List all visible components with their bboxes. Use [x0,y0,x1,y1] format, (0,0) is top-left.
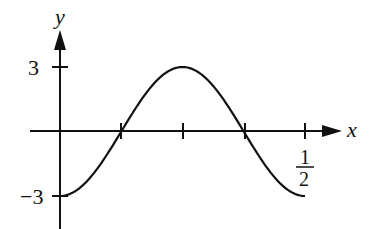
y-tick-label-3: 3 [28,55,39,80]
y-axis-arrow-icon [54,30,66,50]
x-tick-label-half-denominator: 2 [299,168,309,190]
x-tick-label-half-numerator: 1 [300,146,310,168]
x-axis-label: x [346,117,357,142]
x-axis-arrow-icon [322,125,342,137]
y-axis-label: y [53,4,65,29]
y-tick-label-neg3: −3 [20,184,43,209]
sinusoid-graph: y x 3 −3 1 2 [0,0,373,229]
